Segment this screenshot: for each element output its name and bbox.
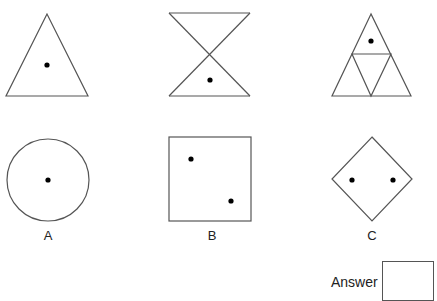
square-figure — [169, 137, 251, 221]
dot — [390, 177, 395, 182]
option-label-b: B — [208, 228, 217, 243]
answer-label: Answer — [331, 274, 378, 290]
option-label-c: C — [367, 228, 376, 243]
diamond-figure — [332, 137, 412, 221]
dot — [44, 62, 49, 67]
dot — [188, 156, 193, 161]
dot — [228, 198, 233, 203]
triangle-figure — [6, 14, 88, 96]
answer-box[interactable] — [382, 261, 434, 301]
hourglass-figure — [169, 13, 250, 96]
dot — [45, 177, 50, 182]
dot — [349, 177, 354, 182]
dot — [207, 77, 212, 82]
option-label-a: A — [44, 228, 53, 243]
subdivided-triangle-figure — [332, 14, 411, 96]
dot — [368, 38, 373, 43]
